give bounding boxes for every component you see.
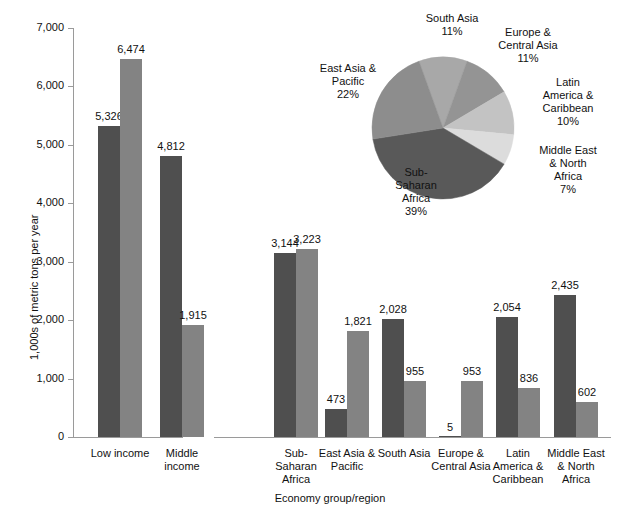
pie-slice (443, 92, 514, 135)
pie-label: Middle East (539, 144, 596, 157)
x-tick-label: Central Asia (431, 460, 490, 473)
pie-label: 11% (441, 25, 462, 38)
pie-label: Africa (402, 192, 430, 205)
pie-label: 7% (560, 183, 576, 196)
bar-series1 (160, 156, 182, 437)
y-tick (68, 262, 73, 263)
y-tick-label: 2,000 (36, 313, 64, 326)
pie-slice (443, 128, 514, 164)
y-axis-line (73, 28, 74, 438)
x-tick-label: Africa (282, 473, 310, 486)
bar-series2 (518, 388, 540, 437)
x-tick-label: South Asia (378, 447, 431, 460)
x-tick-label: & North (557, 460, 594, 473)
bar-series2 (182, 325, 204, 437)
y-tick (68, 145, 73, 146)
bar-series1 (98, 126, 120, 437)
bar-value-label: 5 (447, 421, 453, 434)
bar-series1 (554, 295, 576, 437)
bar-series1 (325, 409, 347, 437)
y-tick (68, 320, 73, 321)
x-tick-label: America & (493, 460, 544, 473)
pie-label: Saharan (395, 179, 437, 192)
x-tick-label: Caribbean (493, 473, 544, 486)
x-tick-label: East Asia & (319, 447, 375, 460)
pie-label: Caribbean (543, 102, 594, 115)
pie-label: East Asia & (320, 62, 376, 75)
x-tick-label: Middle East (547, 447, 604, 460)
bar-series2 (404, 381, 426, 437)
pie-slice (443, 61, 504, 128)
x-tick-label: Pacific (331, 460, 363, 473)
x-tick-label: Low income (91, 447, 150, 460)
x-axis-title: Economy group/region (275, 492, 386, 505)
x-axis-line (73, 437, 183, 438)
bar-value-label: 1,915 (179, 309, 207, 322)
figure-canvas: 01,0002,0003,0004,0005,0006,0007,0001,00… (0, 0, 620, 526)
y-tick-label: 6,000 (36, 79, 64, 92)
bar-value-label: 2,028 (379, 303, 407, 316)
pie-label: 39% (405, 205, 427, 218)
pie-label: Africa (554, 170, 582, 183)
pie-label: Sub- (404, 166, 427, 179)
y-tick-label: 0 (58, 430, 64, 443)
y-tick-label: 5,000 (36, 138, 64, 151)
x-tick-label: Saharan (275, 460, 317, 473)
bar-value-label: 2,054 (493, 301, 521, 314)
x-axis-line (214, 437, 611, 438)
bar-series2 (120, 59, 142, 437)
x-tick-label: Middle (166, 447, 198, 460)
y-axis-title: 1,000s of metric tons per year (28, 214, 40, 360)
bar-value-label: 3,223 (293, 233, 321, 246)
bar-series1 (274, 253, 296, 437)
pie-label: South Asia (426, 12, 479, 25)
pie-slice (372, 61, 443, 139)
pie-label: 22% (337, 88, 359, 101)
bar-series1 (382, 319, 404, 437)
y-tick (68, 203, 73, 204)
bar-series2 (296, 249, 318, 437)
pie-label: 11% (517, 52, 538, 65)
pie-label: Pacific (332, 75, 364, 88)
y-tick-label: 7,000 (36, 21, 64, 34)
bar-value-label: 836 (520, 372, 538, 385)
bar-value-label: 473 (327, 393, 345, 406)
bar-value-label: 4,812 (157, 140, 185, 153)
y-tick-label: 1,000 (36, 372, 64, 385)
pie-label: 10% (557, 115, 579, 128)
pie-label: America & (543, 89, 594, 102)
bar-value-label: 602 (578, 386, 596, 399)
bar-value-label: 2,435 (551, 279, 579, 292)
x-tick-label: income (164, 460, 199, 473)
bar-value-label: 955 (406, 365, 424, 378)
pie-slice (373, 128, 504, 199)
bar-value-label: 5,326 (95, 110, 123, 123)
x-tick-label: Africa (562, 473, 590, 486)
bar-series1 (496, 317, 518, 437)
pie-label: Latin (556, 76, 580, 89)
bar-series2 (576, 402, 598, 437)
y-tick (68, 379, 73, 380)
x-tick-label: Sub- (284, 447, 307, 460)
x-tick-label: Latin (506, 447, 530, 460)
bar-series2 (347, 331, 369, 437)
bar-series2 (461, 381, 483, 437)
pie-label: Central Asia (498, 39, 557, 52)
pie-slice (419, 57, 467, 128)
y-tick (68, 28, 73, 29)
y-tick-label: 4,000 (36, 196, 64, 209)
pie-label: & North (549, 157, 586, 170)
y-tick (68, 86, 73, 87)
y-tick-label: 3,000 (36, 255, 64, 268)
bar-value-label: 6,474 (117, 43, 145, 56)
pie-label: Europe & (505, 26, 551, 39)
x-tick-label: Europe & (438, 447, 484, 460)
bar-value-label: 1,821 (344, 315, 372, 328)
bar-value-label: 953 (463, 365, 481, 378)
bar-series1 (439, 436, 461, 437)
